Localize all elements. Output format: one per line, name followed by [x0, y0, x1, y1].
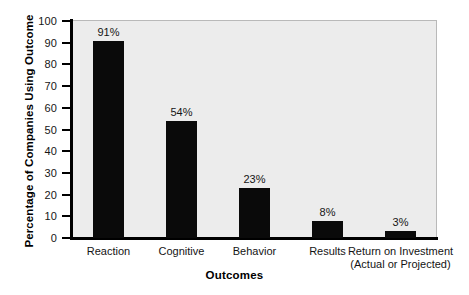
- y-tick-mark: [62, 129, 72, 131]
- bar-behavior: [239, 188, 270, 238]
- x-label-line1: Reaction: [87, 245, 130, 257]
- bar-value-label: 23%: [225, 173, 285, 185]
- y-tick-label: 20: [45, 189, 57, 201]
- y-tick-label: 60: [45, 102, 57, 114]
- bar-reaction: [93, 41, 124, 238]
- y-tick-mark: [62, 20, 72, 22]
- y-tick-label: 40: [45, 145, 57, 157]
- bar-value-label: 91%: [79, 26, 139, 38]
- y-axis-title: Percentage of Companies Using Outcome: [23, 6, 35, 256]
- x-axis-title: Outcomes: [0, 269, 469, 281]
- y-tick-mark: [62, 107, 72, 109]
- y-tick-label: 70: [45, 80, 57, 92]
- y-tick-label: 0: [51, 232, 57, 244]
- y-tick-mark: [62, 42, 72, 44]
- x-label-return-on-investment: Return on Investment(Actual or Projected…: [336, 245, 466, 271]
- bar-results: [312, 221, 343, 238]
- y-tick-label: 10: [45, 210, 57, 222]
- bar-return-on-investment: [385, 231, 416, 238]
- y-tick-mark: [62, 63, 72, 65]
- y-tick-mark: [62, 150, 72, 152]
- y-tick-label: 100: [38, 15, 57, 27]
- x-label-line1: Behavior: [233, 245, 276, 257]
- y-tick-label: 50: [45, 124, 57, 136]
- x-label-line1: Return on Investment: [348, 245, 453, 257]
- x-label-line1: Cognitive: [159, 245, 205, 257]
- bar-chart-figure: 1009080706050403020100 Percentage of Com…: [0, 0, 469, 295]
- y-tick-label: 30: [45, 167, 57, 179]
- y-tick-label: 80: [45, 58, 57, 70]
- bar-value-label: 8%: [298, 206, 358, 218]
- y-tick-mark: [62, 85, 72, 87]
- bar-cognitive: [166, 121, 197, 238]
- y-tick-mark: [62, 215, 72, 217]
- bar-value-label: 54%: [152, 106, 212, 118]
- y-tick-mark: [62, 172, 72, 174]
- y-tick-mark: [62, 237, 72, 239]
- bar-value-label: 3%: [371, 216, 431, 228]
- y-tick-label: 90: [45, 37, 57, 49]
- y-tick-mark: [62, 194, 72, 196]
